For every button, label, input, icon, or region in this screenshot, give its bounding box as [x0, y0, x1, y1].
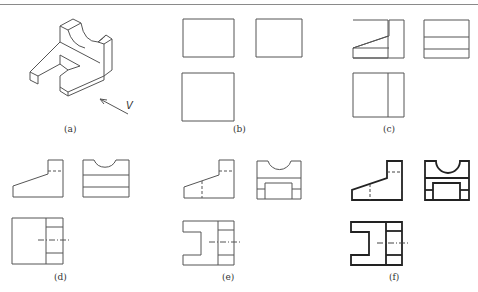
panel-a-isometric — [30, 19, 128, 114]
panel-e — [183, 160, 301, 265]
panel-d-label: (d) — [54, 272, 67, 282]
panel-b-boxes — [182, 19, 302, 121]
panel-f — [351, 161, 469, 265]
panel-d — [12, 160, 129, 264]
panel-b-label: (b) — [233, 124, 246, 134]
panel-a-label: (a) — [64, 124, 76, 134]
panel-c-label: (c) — [383, 124, 395, 134]
panel-f-label: (f) — [389, 272, 399, 282]
panel-e-label: (e) — [222, 272, 234, 282]
panel-c — [353, 20, 469, 117]
view-direction-label: V — [126, 100, 133, 111]
drawing-canvas — [0, 0, 478, 292]
